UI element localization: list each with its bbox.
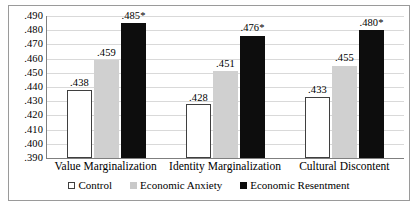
y-axis-tick-label: .430 (24, 96, 43, 107)
bar[interactable]: .485* (121, 23, 146, 158)
bar-value-label: .480* (359, 18, 383, 29)
bar-slot: .433 (305, 16, 330, 158)
x-axis-category-label: Identity Marginalization (165, 161, 284, 173)
bar[interactable]: .480* (359, 30, 384, 158)
bar-slot: .480* (359, 16, 384, 158)
legend-label: Control (78, 180, 112, 191)
bar[interactable]: .455 (332, 66, 357, 158)
bar-value-label: .476* (240, 23, 264, 34)
bar-slot: .451 (213, 16, 238, 158)
bar-value-label: .451 (216, 59, 235, 70)
bar-value-label: .428 (189, 93, 208, 104)
bar-slot: .438 (67, 16, 92, 158)
chart-figure: .490.480.470.460.450.440.430.420.410.400… (8, 5, 410, 201)
bar-value-label: .459 (97, 48, 116, 59)
bar-group: .433.455.480* (285, 16, 404, 158)
y-axis-tick-label: .440 (24, 82, 43, 93)
bar-group-inner: .428.451.476* (166, 16, 285, 158)
x-axis-category-labels: Value MarginalizationIdentity Marginaliz… (46, 161, 404, 173)
bar-slot: .476* (240, 16, 265, 158)
y-axis-tick-label: .470 (24, 39, 43, 50)
bar-value-label: .455 (335, 53, 354, 64)
legend-swatch-icon (240, 182, 247, 189)
bar[interactable]: .433 (305, 97, 330, 158)
legend-item[interactable]: Economic Anxiety (130, 180, 222, 191)
legend-label: Economic Anxiety (140, 180, 222, 191)
x-axis-category-label: Value Marginalization (46, 161, 165, 173)
chart-legend: ControlEconomic AnxietyEconomic Resentme… (9, 180, 409, 191)
bar-value-label: .433 (308, 85, 327, 96)
legend-item[interactable]: Economic Resentment (240, 180, 349, 191)
legend-label: Economic Resentment (250, 180, 349, 191)
bar-slot: .428 (186, 16, 211, 158)
y-axis-tick-label: .480 (24, 25, 43, 36)
bar[interactable]: .459 (94, 60, 119, 158)
bar-slot: .459 (94, 16, 119, 158)
y-axis-tick-label: .490 (24, 11, 43, 22)
bar-slot: .485* (121, 16, 146, 158)
bar-value-label: .438 (70, 78, 89, 89)
bar[interactable]: .451 (213, 71, 238, 158)
bar-value-label: .485* (121, 11, 145, 22)
y-axis-tick-label: .410 (24, 124, 43, 135)
y-axis-tick-label: .390 (24, 153, 43, 164)
bar-group: .438.459.485* (47, 16, 166, 158)
bar[interactable]: .438 (67, 90, 92, 158)
y-axis-tick-label: .450 (24, 68, 43, 79)
y-axis-tick-label: .460 (24, 53, 43, 64)
bar-group-inner: .433.455.480* (285, 16, 404, 158)
bar[interactable]: .428 (186, 104, 211, 158)
y-axis-tick-label: .400 (24, 139, 43, 150)
legend-swatch-icon (130, 182, 137, 189)
bar-slot: .455 (332, 16, 357, 158)
y-axis-tick-label: .420 (24, 110, 43, 121)
plot-area: .490.480.470.460.450.440.430.420.410.400… (46, 16, 404, 159)
bar-group: .428.451.476* (166, 16, 285, 158)
x-axis-category-label: Cultural Discontent (285, 161, 404, 173)
bar-group-inner: .438.459.485* (47, 16, 166, 158)
bar-groups: .438.459.485*.428.451.476*.433.455.480* (47, 16, 404, 158)
legend-item[interactable]: Control (68, 180, 112, 191)
bar[interactable]: .476* (240, 36, 265, 158)
legend-swatch-icon (68, 182, 75, 189)
